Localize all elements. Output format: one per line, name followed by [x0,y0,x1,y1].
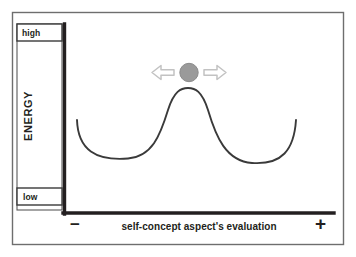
y-tick-label-low: low [23,192,37,202]
y-tick-label-high: high [22,28,40,38]
x-axis-negative-end-label: − [70,216,80,233]
x-axis-positive-end-label: + [315,214,326,233]
state-ball-icon [180,63,198,81]
figure-canvas: high low ENERGY self-concept aspect's ev… [0,0,356,257]
y-axis-label: ENERGY [22,86,34,146]
energy-landscape-figure [0,0,356,257]
x-axis-label: self-concept aspect's evaluation [64,221,334,232]
